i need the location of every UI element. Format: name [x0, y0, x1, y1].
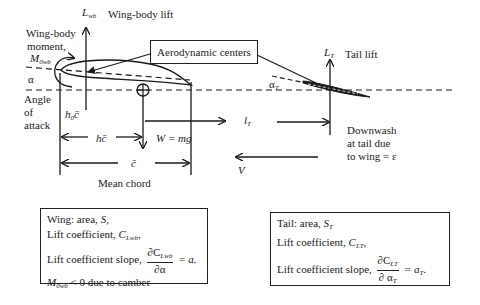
center-of-gravity-icon: [137, 84, 149, 96]
wing-lift-slope-line: Lift coefficient slope, ∂CLwb∂α = a.: [47, 246, 201, 275]
weight-label: W = mg: [156, 132, 192, 144]
aerodynamic-centers-label-box: Aerodynamic centers: [150, 40, 258, 64]
hc-label: hc̄: [96, 132, 106, 144]
angle-of-attack-line3: attack: [24, 119, 50, 131]
aerodynamic-centers-label: Aerodynamic centers: [157, 46, 251, 58]
tail-lift-coefficient-line: Lift coefficient, CLT,: [277, 235, 443, 254]
tail-lift-label: Tail lift: [345, 48, 378, 60]
tail-ac-pointer: [257, 55, 316, 83]
h0c-label: h0c̄: [65, 108, 79, 124]
velocity-label: V: [238, 164, 245, 176]
downwash-line3: to wing = ε: [347, 150, 397, 162]
downwash-line1: Downwash: [347, 124, 397, 136]
wing-body-lift-symbol: Lwb: [82, 6, 96, 22]
alpha-label: α: [28, 73, 34, 85]
wing-properties-box: Wing: area, S, Lift coefficient, CLwb, L…: [40, 208, 208, 284]
wing-lift-coefficient-line: Lift coefficient, CLwb,: [47, 227, 201, 246]
tail-lift-symbol: LT: [324, 46, 334, 62]
lt-label: lT: [244, 114, 251, 130]
mean-chord-label: Mean chord: [98, 177, 151, 189]
wing-body-lift-label: Wing-body lift: [108, 8, 173, 20]
angle-of-attack-line2: of: [24, 106, 33, 118]
wing-body-moment-label-line1: Wing-body: [26, 27, 76, 39]
tail-lift-slope-line: Lift coefficient slope, ∂CLT∂ αT = aT.: [277, 254, 443, 287]
wing-moment-line: M0wb < 0 due to camber: [47, 275, 201, 294]
cbar-label: c̄: [131, 157, 136, 169]
wing-body-moment-label-line2: moment,: [27, 40, 66, 52]
tail-properties-box: Tail: area, ST Lift coefficient, CLT, Li…: [270, 212, 450, 286]
tail-area-line: Tail: area, ST: [277, 216, 443, 235]
downwash-line2: at tail due: [347, 137, 390, 149]
angle-of-attack-line1: Angle: [24, 93, 51, 105]
wing-area-line: Wing: area, S,: [47, 212, 201, 227]
tail-airfoil: [303, 81, 370, 97]
alpha-t-label: αT: [269, 78, 279, 94]
wing-body-moment-symbol: M0wb: [30, 52, 51, 68]
